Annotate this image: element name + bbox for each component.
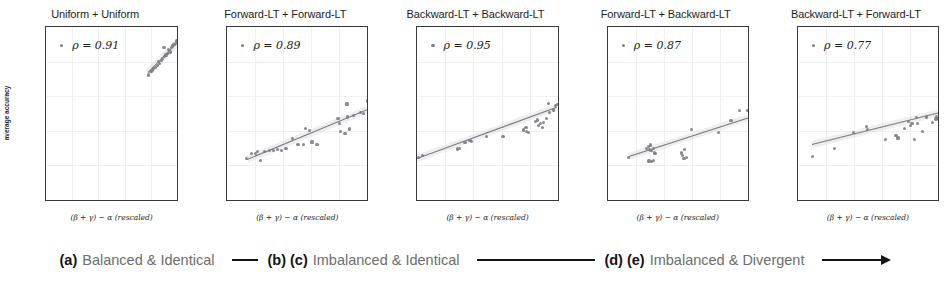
y-tick-mark [797,62,798,63]
data-point [345,102,348,105]
gridline-horizontal [798,96,938,97]
plot-area: ρ = 0.910.00.20.40.60.81.00.00.20.40.60.… [45,26,178,201]
data-point [545,117,548,120]
x-tick-mark [445,200,446,201]
gridline-vertical [826,27,827,200]
gridline-horizontal [798,62,938,63]
data-point [463,141,466,144]
gridline-horizontal [417,62,557,63]
data-point [343,132,346,135]
data-point [304,127,307,130]
plot-area: ρ = 0.890.00.20.40.60.81.00.00.20.40.60.… [226,26,368,201]
y-tick-mark [797,27,798,28]
data-point [541,126,544,129]
legend-marker-icon [60,44,63,47]
y-tick-mark [45,27,46,28]
data-point [936,117,939,120]
gridline-vertical [692,27,693,200]
data-point [310,140,313,143]
caption-text-bc: Imbalanced & Identical [313,252,460,268]
data-point [556,103,559,106]
data-point [259,159,262,162]
y-tick-mark [416,131,417,132]
caption-segment-a: (a) Balanced & Identical [60,252,224,268]
caption-tag-a: (a) [60,252,78,268]
y-tick-mark [226,200,227,201]
y-tick-mark [226,96,227,97]
caption-arrow-icon [822,255,891,265]
panel-title: Backward-LT + Backward-LT [380,8,570,20]
x-tick-mark [417,200,418,201]
data-point [346,115,349,118]
legend-marker-icon [622,44,625,47]
x-tick-mark [882,200,883,201]
caption-rule-2 [477,259,595,261]
data-point [339,130,342,133]
data-point [833,147,836,150]
data-point [652,159,655,162]
y-tick-mark [226,165,227,166]
panel-title: Forward-LT + Backward-LT [571,8,761,20]
legend: ρ = 0.89 [241,39,300,52]
data-point [910,122,913,125]
scatter-panel-4: Forward-LT + Backward-LTρ = 0.870.00.20.… [571,0,761,236]
gridline-vertical [255,27,256,200]
data-point [913,138,916,141]
gridline-vertical [854,27,855,200]
data-point [811,155,814,158]
x-tick-mark [798,200,799,201]
y-tick-mark [607,62,608,63]
gridline-vertical [311,27,312,200]
x-tick-mark [125,200,126,201]
legend: ρ = 0.87 [622,39,681,52]
figure-caption: (a) Balanced & Identical (b) (c) Imbalan… [0,240,951,280]
x-axis-label-math: (β + γ) − α (rescaled) [256,213,338,222]
scatter-panel-5: Backward-LT + Forward-LTρ = 0.770.00.20.… [761,0,951,236]
gridline-vertical [882,27,883,200]
scatter-panel-2: Forward-LT + Forward-LTρ = 0.890.00.20.4… [190,0,380,236]
gridline-vertical [339,27,340,200]
gridline-vertical [151,27,152,200]
correlation-label: ρ = 0.89 [253,39,300,52]
legend: ρ = 0.77 [812,39,871,52]
y-tick-mark [607,27,608,28]
data-point [284,147,287,150]
y-tick-mark [226,131,227,132]
gridline-vertical [636,27,637,200]
gridline-vertical [910,27,911,200]
data-point [542,121,545,124]
data-point [168,50,171,53]
data-point [348,127,351,130]
correlation-label: ρ = 0.95 [444,39,491,52]
y-tick-mark [797,131,798,132]
gridline-vertical [473,27,474,200]
regression-line [247,109,368,160]
data-point [362,112,365,115]
x-axis-label: (β + γ) − α (rescaled) [416,213,558,222]
gridline-horizontal [417,96,557,97]
data-point [717,131,720,134]
x-tick-mark [151,200,152,201]
x-tick-mark [98,200,99,201]
scatter-panel-3: Backward-LT + Backward-LTρ = 0.950.00.20… [380,0,570,236]
y-tick-mark [45,96,46,97]
x-tick-mark [530,200,531,201]
data-point [738,109,741,112]
y-tick-mark [607,96,608,97]
gridline-horizontal [46,96,177,97]
caption-text-de: Imbalanced & Divergent [650,252,805,268]
gridline-vertical [283,27,284,200]
x-tick-mark [283,200,284,201]
x-axis-label-math: (β + γ) − α (rescaled) [637,213,719,222]
x-tick-mark [72,200,73,201]
data-point [627,156,630,159]
y-tick-mark [226,27,227,28]
x-tick-mark [854,200,855,201]
data-point [896,136,899,139]
data-point [654,152,657,155]
x-tick-mark [826,200,827,201]
data-point [685,156,688,159]
caption-tag-de: (d) (e) [604,252,644,268]
legend-marker-icon [241,44,244,47]
data-point [352,114,355,117]
